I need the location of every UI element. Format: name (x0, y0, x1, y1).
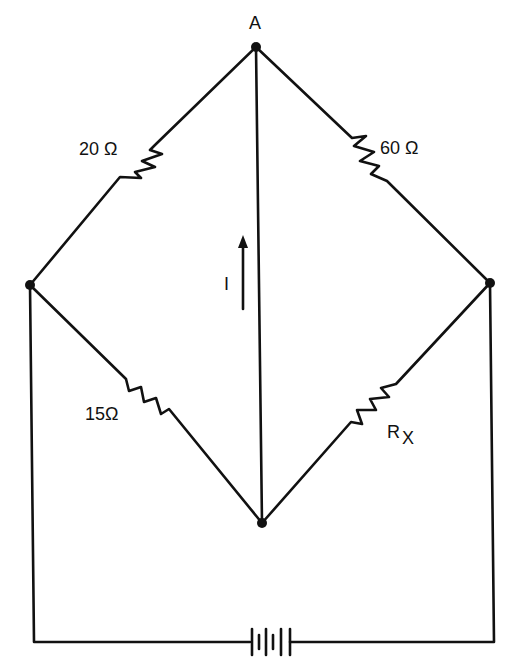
circuit-diagram: A 20 Ω 60 Ω 15Ω RX I (0, 0, 511, 666)
node-a-label: A (249, 13, 261, 33)
battery-icon (252, 629, 290, 655)
resistor-15-label: 15Ω (85, 404, 118, 424)
node-bottom (257, 518, 267, 528)
resistor-rx-label: RX (387, 422, 414, 448)
resistor-60-label: 60 Ω (380, 138, 418, 158)
left-rail-wire (30, 285, 250, 642)
resistor-20-ohm-branch (30, 47, 256, 285)
resistor-60-ohm-branch (256, 47, 490, 283)
middle-branch-wire (256, 47, 262, 523)
resistor-15-ohm-branch (30, 285, 262, 523)
right-rail-wire (290, 283, 494, 642)
resistor-20-label: 20 Ω (79, 139, 117, 159)
current-arrow-icon (238, 235, 248, 309)
node-left (25, 280, 35, 290)
resistor-rx-branch (262, 283, 490, 523)
node-right (485, 278, 495, 288)
node-a (251, 42, 261, 52)
current-label: I (224, 274, 229, 294)
